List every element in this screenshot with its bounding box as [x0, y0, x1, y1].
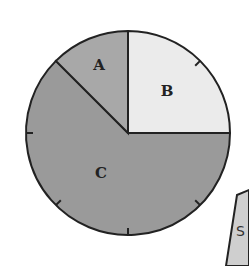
- label-b: B: [161, 82, 174, 100]
- cropped-card: S: [226, 190, 249, 266]
- label-c: C: [95, 164, 107, 182]
- pie-chart: A B C S: [0, 0, 249, 266]
- slice-b: [128, 31, 230, 133]
- card-text: S: [236, 223, 245, 239]
- label-a: A: [92, 56, 105, 74]
